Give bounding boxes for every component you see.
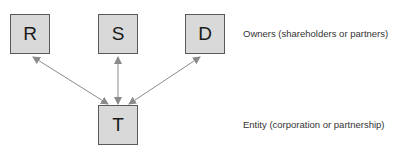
node-r: R <box>10 14 50 54</box>
node-t: T <box>98 105 138 145</box>
node-d-label: D <box>198 23 212 45</box>
arrow-t-r <box>33 57 108 104</box>
owners-label: Owners (shareholders or partners) <box>243 28 388 39</box>
node-s-label: S <box>112 23 125 45</box>
arrow-t-d <box>129 57 200 104</box>
node-s: S <box>98 14 138 54</box>
node-t-label: T <box>112 114 124 136</box>
entity-label: Entity (corporation or partnership) <box>243 119 385 130</box>
node-d: D <box>185 14 225 54</box>
node-r-label: R <box>23 23 37 45</box>
